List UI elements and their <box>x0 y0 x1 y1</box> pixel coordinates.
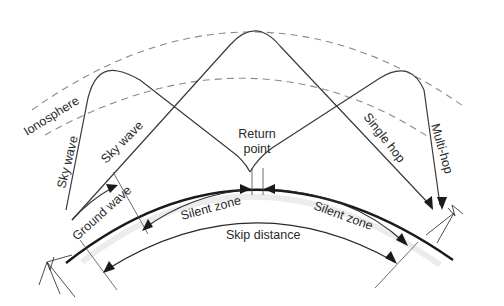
receiver-antenna-icon <box>426 205 463 243</box>
sky-wave-left-label: Sky wave <box>54 134 81 189</box>
single-hop-arrowhead <box>424 196 433 210</box>
return-point-label-line2: point <box>243 142 271 156</box>
multi-hop-arrowhead <box>437 197 447 210</box>
sky-wave-ray-left <box>66 70 250 210</box>
ionosphere-label: Ionosphere <box>21 94 82 139</box>
return-point-label-line1: Return <box>238 127 276 141</box>
silent-zone-right-arrowhead-start <box>264 184 275 194</box>
radio-propagation-diagram: Ionosphere Sky wave Sky wave Ground wave… <box>0 0 504 306</box>
silent-zone-left-arrowhead-end <box>240 184 251 194</box>
skip-distance-arrowhead-end <box>385 251 397 264</box>
skip-distance-label: Skip distance <box>226 228 300 242</box>
skip-distance-arrowhead-start <box>103 261 115 273</box>
sky-wave-center-label: Sky wave <box>98 118 146 166</box>
skip-end-line <box>375 242 418 288</box>
